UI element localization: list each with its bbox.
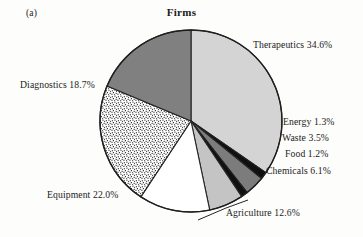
pie-chart-figure: (a) Firms Therapeutics 34.6% Energy 1.3%… bbox=[0, 0, 363, 237]
slice-label-waste: Waste 3.5% bbox=[282, 133, 329, 143]
slice-label-diagnostics: Diagnostics 18.7% bbox=[20, 80, 95, 90]
slice-label-chemicals: Chemicals 6.1% bbox=[266, 166, 331, 176]
slice-label-food: Food 1.2% bbox=[285, 149, 328, 159]
pie-graphic bbox=[99, 29, 283, 213]
slice-label-equipment: Equipment 22.0% bbox=[47, 190, 118, 200]
slice-label-agriculture: Agriculture 12.6% bbox=[226, 208, 300, 218]
pie-svg bbox=[99, 29, 283, 213]
slice-label-energy: Energy 1.3% bbox=[283, 117, 335, 127]
slice-label-therapeutics: Therapeutics 34.6% bbox=[253, 40, 332, 50]
chart-title: Firms bbox=[0, 6, 363, 18]
